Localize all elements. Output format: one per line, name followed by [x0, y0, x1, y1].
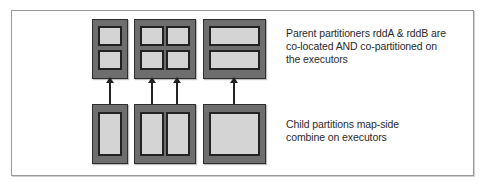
parent-executor-1 — [92, 19, 128, 79]
parent-partition — [98, 50, 122, 70]
parent-partition — [98, 26, 122, 46]
arrow-up-icon — [176, 82, 178, 104]
arrow-up-icon — [109, 82, 111, 104]
parent-partition — [209, 26, 260, 46]
arrow-up-icon — [233, 82, 235, 104]
child-executor-3 — [203, 104, 266, 164]
child-partition — [209, 112, 260, 156]
parent-partition — [140, 26, 164, 46]
parent-partition — [140, 50, 164, 70]
arrow-up-icon — [151, 82, 153, 104]
parent-executor-2 — [134, 19, 196, 79]
child-executor-2 — [134, 104, 196, 164]
parent-partition — [166, 50, 190, 70]
parent-partition — [209, 50, 260, 70]
parent-partition — [166, 26, 190, 46]
child-executor-1 — [92, 104, 128, 164]
child-partition — [166, 112, 190, 156]
parent-partitions-label: Parent partitioners rddA & rddB are co-l… — [286, 27, 446, 66]
child-partition — [98, 112, 122, 156]
child-partition — [140, 112, 164, 156]
child-partitions-label: Child partitions map-side combine on exe… — [286, 118, 399, 144]
parent-executor-3 — [203, 19, 266, 79]
